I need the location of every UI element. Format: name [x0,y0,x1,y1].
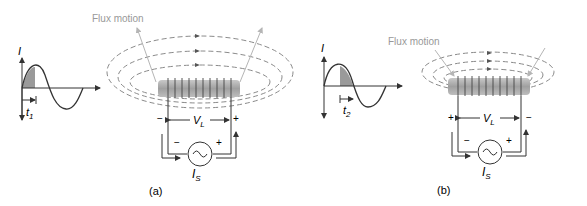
panel-a: I t1 Flux motion [18,13,293,197]
svg-text:IS: IS [482,165,491,181]
flux-arrow-right [528,48,545,76]
svg-text:t1: t1 [26,106,34,121]
current-axis-label: I [18,45,21,57]
flux-arrow-left [137,28,156,82]
svg-text:+: + [506,135,512,146]
caption-a: (a) [149,185,162,197]
panel-b: I t2 Flux motion VL + [321,36,554,196]
flux-arrow-left [435,50,454,76]
svg-text:+: + [448,112,454,123]
flux-lines-a [107,36,293,108]
svg-text:+: + [216,137,222,148]
svg-text:t2: t2 [343,104,351,119]
flux-motion-label: Flux motion [92,13,144,24]
svg-text:IS: IS [192,167,201,183]
left-polarity: − [157,113,163,124]
svg-text:−: − [526,112,532,123]
svg-text:VL: VL [193,114,205,129]
svg-text:−: − [174,137,180,148]
inductor-diagram: I t1 Flux motion [0,0,587,206]
solenoid-a [158,78,240,98]
right-polarity: + [233,113,239,124]
current-waveform-b: I t2 [321,42,402,119]
current-waveform-a: I t1 [18,45,100,121]
solenoid-b [448,76,530,96]
svg-text:VL: VL [483,112,495,127]
svg-text:Flux motion: Flux motion [388,36,440,47]
circuit-b [452,96,526,164]
svg-text:−: − [464,135,470,146]
caption-b: (b) [437,184,450,196]
svg-text:I: I [321,42,324,54]
